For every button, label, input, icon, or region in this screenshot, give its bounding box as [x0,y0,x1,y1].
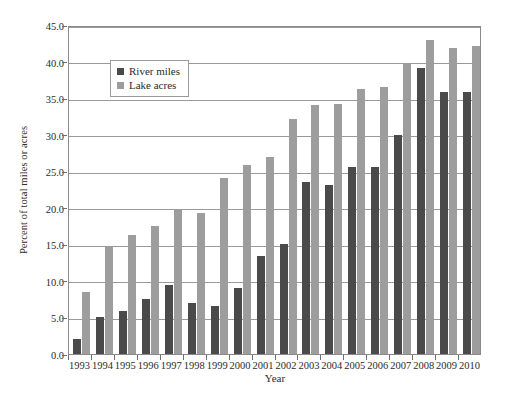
bar-river-miles [188,303,196,354]
legend-label-river-miles: River miles [129,66,180,77]
bar-river-miles [165,285,173,354]
bar-group [276,27,299,354]
y-axis-tick-label: 20.0 [24,203,64,214]
bar-river-miles [463,92,471,354]
bar-river-miles [211,306,219,354]
bar-group [390,27,413,354]
bar-chart-figure: Percent of total miles or acres 0.05.010… [0,0,508,398]
bar-lake-acres [220,178,228,354]
y-axis-tick-label: 30.0 [24,130,64,141]
y-axis-tick-mark [62,318,67,319]
bar-group [459,27,482,354]
y-axis-tick-label: 0.0 [24,350,64,361]
bar-river-miles [96,317,104,354]
bar-group [230,27,253,354]
bar-group [207,27,230,354]
x-axis-tick-label: 2010 [452,360,488,371]
bar-river-miles [257,256,265,354]
bar-group [436,27,459,354]
bar-lake-acres [243,165,251,354]
bar-lake-acres [449,48,457,354]
y-axis-tick-mark [62,135,67,136]
bar-river-miles [371,167,379,354]
bar-group [69,27,92,354]
y-axis-tick-mark [62,208,67,209]
bar-lake-acres [357,89,365,354]
y-axis-tick-mark [62,99,67,100]
bar-lake-acres [380,87,388,354]
bar-river-miles [394,135,402,354]
x-axis-title: Year [68,372,482,384]
bar-group [253,27,276,354]
bar-lake-acres [128,235,136,354]
bar-river-miles [440,92,448,354]
bar-lake-acres [105,247,113,354]
bar-river-miles [142,299,150,354]
bar-group [298,27,321,354]
legend-swatch-icon-lake-acres [117,82,124,89]
y-axis-tick-label: 40.0 [24,57,64,68]
bar-river-miles [417,68,425,354]
legend-item-lake-acres: Lake acres [117,78,180,92]
y-axis-tick-mark [62,355,67,356]
y-axis-tick-label: 45.0 [24,21,64,32]
bar-group [413,27,436,354]
bar-group [344,27,367,354]
bar-lake-acres [472,46,480,354]
y-axis-tick-label: 25.0 [24,167,64,178]
y-axis-tick-mark [62,26,67,27]
legend-item-river-miles: River miles [117,64,180,78]
bar-group [367,27,390,354]
chart-legend: River miles Lake acres [110,60,189,97]
bar-river-miles [73,339,81,354]
y-axis-tick-mark [62,172,67,173]
bar-lake-acres [311,105,319,354]
y-axis-tick-mark [62,62,67,63]
legend-swatch-icon-river-miles [117,68,124,75]
bar-lake-acres [82,292,90,354]
y-axis-tick-mark [62,281,67,282]
bar-lake-acres [334,104,342,354]
bar-lake-acres [197,213,205,354]
y-axis-tick-label: 10.0 [24,276,64,287]
y-axis-tick-mark [62,245,67,246]
bar-river-miles [348,167,356,354]
legend-label-lake-acres: Lake acres [129,80,176,91]
bar-river-miles [302,182,310,354]
bar-river-miles [119,311,127,354]
bar-river-miles [234,288,242,354]
bar-lake-acres [151,226,159,354]
bar-group [321,27,344,354]
bar-lake-acres [289,119,297,354]
bar-lake-acres [174,209,182,354]
bar-river-miles [325,185,333,354]
bar-lake-acres [426,40,434,354]
bar-lake-acres [266,157,274,354]
bar-lake-acres [403,63,411,354]
bar-river-miles [280,244,288,354]
y-axis-tick-labels: 0.05.010.015.020.025.030.035.040.045.0 [22,26,64,355]
y-axis-tick-label: 35.0 [24,94,64,105]
y-axis-tick-label: 5.0 [24,313,64,324]
y-axis-tick-label: 15.0 [24,240,64,251]
